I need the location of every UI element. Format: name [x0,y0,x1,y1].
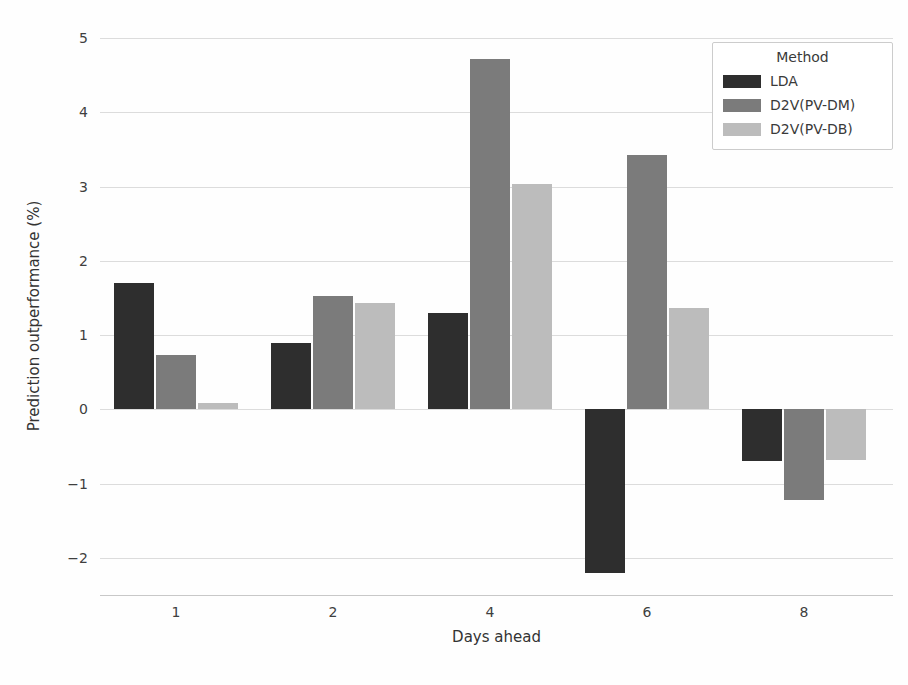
legend-entry-d2v-pv-db: D2V(PV-DB) [723,117,882,141]
gridline [100,484,893,485]
bar-lda-day-8 [742,409,782,461]
legend-swatch-d2v-pv-db [723,123,761,136]
y-tick-label: −2 [0,549,88,567]
legend-swatch-d2v-pv-dm [723,99,761,112]
legend-label-lda: LDA [770,73,798,89]
bar-d2v-pv-db-day-6 [669,308,709,409]
bar-lda-day-6 [585,409,625,572]
bar-chart-figure: Prediction outperformance (%) 543210−1−2… [0,0,908,685]
x-tick-label-8: 8 [784,604,824,620]
y-tick-label: −1 [0,475,88,493]
y-tick-label: 1 [0,326,88,344]
bar-d2v-pv-dm-day-2 [313,296,353,409]
legend-label-d2v-pv-dm: D2V(PV-DM) [770,97,855,113]
bar-d2v-pv-dm-day-1 [156,355,196,409]
legend-swatch-lda [723,75,761,88]
x-tick-label-1: 1 [156,604,196,620]
bar-lda-day-2 [271,343,311,410]
legend-label-d2v-pv-db: D2V(PV-DB) [770,121,853,137]
gridline [100,558,893,559]
y-tick-label: 5 [0,29,88,47]
x-tick-label-2: 2 [313,604,353,620]
bar-d2v-pv-dm-day-8 [784,409,824,500]
legend-entry-d2v-pv-dm: D2V(PV-DM) [723,93,882,117]
bar-d2v-pv-dm-day-6 [627,155,667,409]
bar-d2v-pv-db-day-2 [355,303,395,409]
y-tick-labels: 543210−1−2 [0,38,88,595]
x-tick-label-6: 6 [627,604,667,620]
x-axis-title: Days ahead [100,628,893,646]
legend-title: Method [723,49,882,65]
y-tick-label: 2 [0,252,88,270]
y-tick-label: 0 [0,400,88,418]
x-tick-label-4: 4 [470,604,510,620]
gridline [100,38,893,39]
bar-lda-day-1 [114,283,154,409]
bar-d2v-pv-db-day-4 [512,184,552,409]
legend-entry-lda: LDA [723,69,882,93]
bar-d2v-pv-db-day-8 [826,409,866,460]
bar-d2v-pv-db-day-1 [198,403,238,409]
y-tick-label: 3 [0,178,88,196]
x-tick-labels: 12468 [100,604,893,626]
bar-d2v-pv-dm-day-4 [470,59,510,410]
bar-lda-day-4 [428,313,468,410]
legend: Method LDA D2V(PV-DM) D2V(PV-DB) [712,42,893,150]
y-tick-label: 4 [0,103,88,121]
